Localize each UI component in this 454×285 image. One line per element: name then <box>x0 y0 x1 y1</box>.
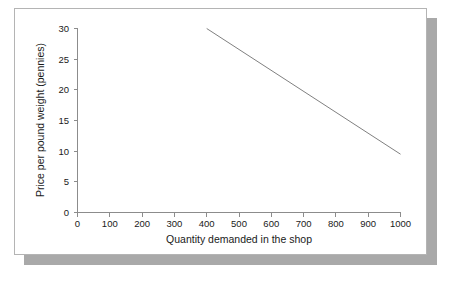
x-axis-title: Quantity demanded in the shop <box>166 233 312 245</box>
y-tick-label-10: 10 <box>58 146 69 157</box>
x-tick-label-300: 300 <box>166 218 182 229</box>
x-tick-label-400: 400 <box>199 218 215 229</box>
x-axis-tick-labels: 0 100 200 300 400 500 600 700 800 900 10… <box>75 218 411 229</box>
chart-plot-area: 0 5 10 15 20 25 30 0 100 200 300 <box>0 0 454 285</box>
x-tick-label-800: 800 <box>328 218 344 229</box>
y-tick-label-15: 15 <box>58 115 69 126</box>
x-tick-label-200: 200 <box>134 218 150 229</box>
y-axis-tick-labels: 0 5 10 15 20 25 30 <box>58 23 69 218</box>
x-tick-label-1000: 1000 <box>390 218 411 229</box>
x-tick-label-900: 900 <box>360 218 376 229</box>
y-tick-label-20: 20 <box>58 84 69 95</box>
x-tick-label-0: 0 <box>75 218 80 229</box>
y-tick-label-25: 25 <box>58 54 69 65</box>
y-tick-label-0: 0 <box>64 207 69 218</box>
x-tick-label-600: 600 <box>263 218 279 229</box>
y-axis-ticks <box>74 29 78 213</box>
y-tick-label-5: 5 <box>64 176 69 187</box>
chart-figure: 0 5 10 15 20 25 30 0 100 200 300 <box>0 0 454 285</box>
y-axis-title: Price per pound weight (pennies) <box>34 43 46 197</box>
x-tick-label-700: 700 <box>296 218 312 229</box>
y-tick-label-30: 30 <box>58 23 69 34</box>
x-axis-ticks <box>78 213 401 217</box>
x-tick-label-500: 500 <box>231 218 247 229</box>
demand-curve-line <box>207 29 401 155</box>
x-tick-label-100: 100 <box>102 218 118 229</box>
